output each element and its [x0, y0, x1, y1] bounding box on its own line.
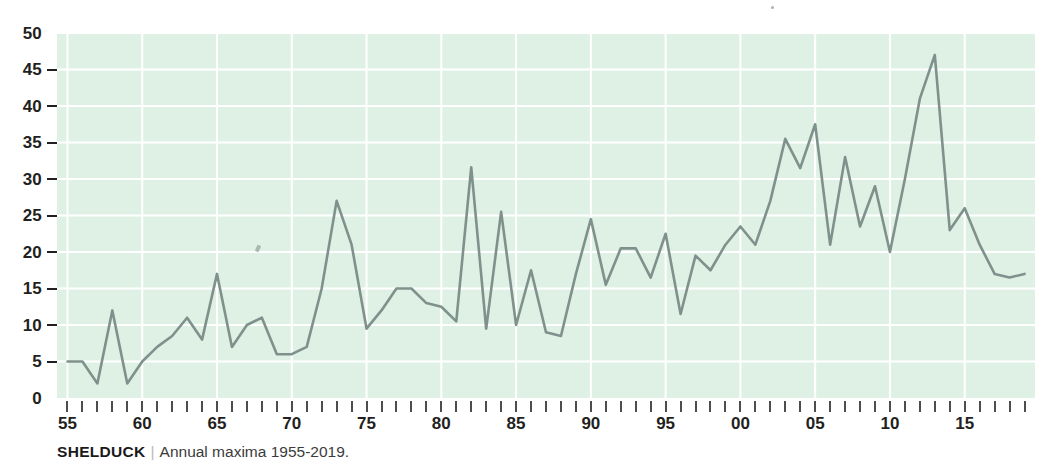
x-tick	[246, 401, 248, 412]
x-tick	[96, 401, 98, 412]
y-tick-label: 30	[23, 171, 42, 188]
x-tick	[81, 401, 83, 412]
y-tick-mark	[47, 251, 57, 253]
x-tick-label: 00	[731, 414, 750, 434]
x-tick	[635, 401, 637, 412]
x-tick	[291, 401, 293, 412]
y-tick-15: 15	[0, 280, 57, 298]
x-tick	[111, 401, 113, 412]
y-tick-30: 30	[0, 170, 57, 188]
x-tick	[201, 401, 203, 412]
x-tick	[994, 401, 996, 412]
series-line	[57, 33, 1035, 398]
x-tick	[769, 401, 771, 412]
paper-dot-icon	[771, 6, 774, 9]
x-tick-label: 55	[58, 414, 77, 434]
caption: SHELDUCK|Annual maxima 1955-2019.	[57, 443, 349, 461]
x-tick	[321, 401, 323, 412]
y-tick-mark	[47, 324, 57, 326]
x-tick-label: 70	[282, 414, 301, 434]
y-tick-label: 15	[23, 280, 42, 297]
x-tick	[545, 401, 547, 412]
y-tick-label: 5	[32, 353, 42, 370]
x-tick	[575, 401, 577, 412]
y-tick-mark	[47, 32, 57, 34]
x-tick	[515, 401, 517, 412]
x-tick	[410, 401, 412, 412]
x-tick	[754, 401, 756, 412]
x-tick-label: 65	[208, 414, 227, 434]
y-tick-mark	[47, 69, 57, 71]
caption-description: Annual maxima 1955-2019.	[160, 443, 350, 460]
y-tick-label: 40	[23, 98, 42, 115]
x-tick-label: 60	[133, 414, 152, 434]
x-tick	[829, 401, 831, 412]
x-tick	[66, 401, 68, 412]
x-tick	[889, 401, 891, 412]
x-tick	[336, 401, 338, 412]
x-tick-label: 10	[880, 414, 899, 434]
x-tick	[395, 401, 397, 412]
y-tick-mark	[47, 215, 57, 217]
x-tick	[859, 401, 861, 412]
x-tick	[844, 401, 846, 412]
x-tick	[919, 401, 921, 412]
x-tick	[904, 401, 906, 412]
x-tick-label: 95	[656, 414, 675, 434]
y-axis: 05101520253035404550	[0, 0, 57, 400]
x-tick	[964, 401, 966, 412]
y-tick-45: 45	[0, 61, 57, 79]
x-tick	[650, 401, 652, 412]
x-tick	[1024, 401, 1026, 412]
x-tick	[381, 401, 383, 412]
x-tick	[126, 401, 128, 412]
x-tick	[231, 401, 233, 412]
y-tick-label: 50	[23, 25, 42, 42]
y-tick-10: 10	[0, 316, 57, 334]
caption-separator: |	[151, 443, 155, 460]
x-tick	[739, 401, 741, 412]
x-tick	[141, 401, 143, 412]
chart-figure: 05101520253035404550 5560657075808590950…	[0, 0, 1042, 471]
x-tick	[709, 401, 711, 412]
x-tick	[784, 401, 786, 412]
x-tick	[1009, 401, 1011, 412]
y-tick-25: 25	[0, 207, 57, 225]
y-tick-mark	[47, 361, 57, 363]
x-tick	[351, 401, 353, 412]
x-tick	[530, 401, 532, 412]
y-tick-label: 25	[23, 207, 42, 224]
x-tick	[874, 401, 876, 412]
x-tick	[979, 401, 981, 412]
x-tick	[171, 401, 173, 412]
y-tick-mark	[47, 397, 57, 399]
x-tick	[276, 401, 278, 412]
x-tick-label: 15	[955, 414, 974, 434]
y-tick-0: 0	[0, 389, 57, 407]
x-tick	[724, 401, 726, 412]
x-tick	[306, 401, 308, 412]
x-tick	[620, 401, 622, 412]
x-tick	[455, 401, 457, 412]
y-tick-40: 40	[0, 97, 57, 115]
y-tick-5: 5	[0, 353, 57, 371]
x-tick	[500, 401, 502, 412]
x-tick-label: 85	[507, 414, 526, 434]
x-tick	[680, 401, 682, 412]
y-tick-label: 10	[23, 317, 42, 334]
x-tick	[590, 401, 592, 412]
x-tick	[156, 401, 158, 412]
y-tick-mark	[47, 142, 57, 144]
x-tick	[695, 401, 697, 412]
y-tick-label: 20	[23, 244, 42, 261]
x-tick	[949, 401, 951, 412]
y-tick-mark	[47, 288, 57, 290]
x-tick	[216, 401, 218, 412]
x-tick	[186, 401, 188, 412]
x-tick	[485, 401, 487, 412]
x-tick	[934, 401, 936, 412]
x-tick	[814, 401, 816, 412]
x-tick	[799, 401, 801, 412]
x-tick-label: 80	[432, 414, 451, 434]
x-tick	[440, 401, 442, 412]
